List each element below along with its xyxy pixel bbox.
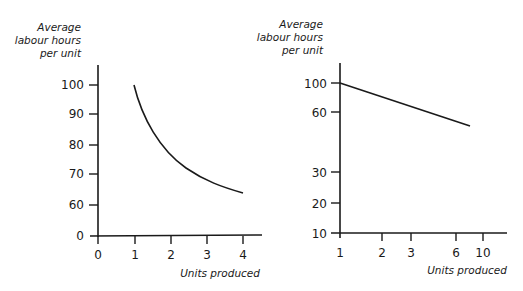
right-y-ticks: 100 60 30 20 10 xyxy=(304,77,340,241)
right-learning-line xyxy=(340,83,470,126)
left-x-tick-3: 3 xyxy=(203,248,211,262)
right-y-tick-10: 10 xyxy=(312,227,327,241)
left-y-tick-100: 100 xyxy=(61,78,84,92)
right-y-tick-60: 60 xyxy=(312,106,327,120)
right-x-tick-6: 6 xyxy=(452,246,460,260)
right-x-tick-1: 1 xyxy=(336,246,344,260)
left-y-ticks: 100 90 80 70 60 0 xyxy=(61,78,98,243)
left-y-tick-90: 90 xyxy=(69,107,84,121)
left-y-tick-70: 70 xyxy=(69,167,84,181)
left-y-axis-title-line3: per unit xyxy=(39,47,82,59)
right-y-tick-100: 100 xyxy=(304,77,327,91)
right-x-tick-2: 2 xyxy=(378,246,386,260)
left-x-tick-0: 0 xyxy=(94,248,102,262)
left-learning-curve xyxy=(134,85,243,193)
right-y-tick-30: 30 xyxy=(312,166,327,180)
right-y-axis-title-line2: labour hours xyxy=(257,31,324,43)
left-x-tick-4: 4 xyxy=(239,248,247,262)
right-y-axis-title-line1: Average xyxy=(278,18,323,30)
charts-canvas: Average labour hours per unit 100 90 80 … xyxy=(0,0,523,291)
left-y-axis-title-line1: Average xyxy=(36,21,81,33)
left-y-axis-title-line2: labour hours xyxy=(15,34,82,46)
left-x-ticks: 0 1 2 3 4 xyxy=(94,236,247,262)
left-x-tick-1: 1 xyxy=(131,248,139,262)
right-y-axis-title-line3: per unit xyxy=(281,44,324,56)
right-x-axis-title: Units produced xyxy=(427,264,507,276)
left-x-axis xyxy=(90,235,262,236)
right-chart: Average labour hours per unit 100 60 30 … xyxy=(257,18,508,276)
left-y-tick-80: 80 xyxy=(69,138,84,152)
left-x-axis-title: Units produced xyxy=(180,267,260,279)
right-x-ticks: 1 2 3 6 10 xyxy=(336,233,490,260)
right-x-tick-10: 10 xyxy=(475,246,490,260)
right-y-tick-20: 20 xyxy=(312,197,327,211)
left-y-tick-60: 60 xyxy=(69,198,84,212)
left-x-tick-2: 2 xyxy=(167,248,175,262)
right-x-tick-3: 3 xyxy=(407,246,415,260)
left-y-tick-0: 0 xyxy=(76,229,84,243)
left-chart: Average labour hours per unit 100 90 80 … xyxy=(15,21,262,279)
